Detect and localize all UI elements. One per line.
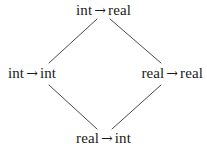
node-top: int→real (0, 3, 207, 18)
edge-left-bottom (49, 85, 97, 129)
node-right: real→real (141, 66, 203, 81)
edge-top-left (49, 19, 97, 63)
arrow-icon: → (24, 65, 40, 81)
node-right-codomain: real (180, 65, 203, 81)
node-left-domain: int (8, 65, 24, 81)
node-bottom-codomain: int (115, 130, 131, 146)
node-right-domain: real (141, 65, 164, 81)
node-left-codomain: int (40, 65, 56, 81)
edge-right-bottom (112, 85, 161, 129)
node-bottom-domain: real (76, 130, 99, 146)
node-left: int→int (8, 66, 56, 81)
node-bottom: real→int (0, 131, 207, 146)
node-top-codomain: real (108, 2, 131, 18)
arrow-icon: → (99, 130, 115, 146)
lattice-diagram: int→real int→int real→real real→int (0, 0, 207, 151)
arrow-icon: → (164, 65, 180, 81)
arrow-icon: → (92, 2, 108, 18)
edge-top-right (110, 19, 161, 63)
node-top-domain: int (76, 2, 92, 18)
